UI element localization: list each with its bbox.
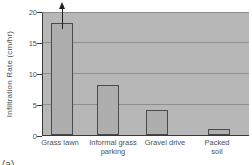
bar-informal-grass (97, 85, 119, 135)
exceeds-axis-arrow-icon (62, 7, 63, 29)
y-tick-mark-0 (37, 136, 42, 137)
exceeds-axis-arrowhead-icon (59, 2, 65, 9)
figure-caption-label: (a) (2, 159, 14, 165)
y-tick-label-5: 5 (13, 101, 37, 110)
gridline-10 (43, 73, 249, 74)
y-tick-mark-20 (37, 12, 42, 13)
x-category-label-4: Packed soil (185, 139, 249, 156)
gridline-15 (43, 42, 249, 43)
bar-gravel-drive (146, 110, 168, 135)
y-tick-label-15: 15 (13, 39, 37, 48)
infiltration-rate-bar-chart: Infiltration Rate (cm/hr) (a) 05101520Gr… (0, 0, 252, 165)
y-tick-mark-15 (37, 43, 42, 44)
y-tick-mark-10 (37, 74, 42, 75)
bar-grass-lawn (51, 23, 73, 135)
bar-packed (208, 129, 230, 135)
y-tick-label-10: 10 (13, 70, 37, 79)
gridline-5 (43, 104, 249, 105)
plot-area (42, 12, 249, 136)
y-tick-label-20: 20 (13, 8, 37, 17)
y-tick-mark-5 (37, 105, 42, 106)
